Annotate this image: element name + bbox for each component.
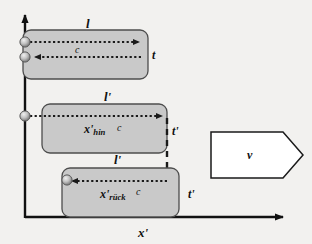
distance-subscript: rück (109, 192, 125, 202)
moving-frame-outbound-length-label: l' (104, 90, 111, 103)
moving-frame-return-marker (62, 175, 72, 185)
moving-frame-return-speed-label: c (136, 187, 140, 197)
moving-frame-return-time-label: t' (188, 188, 195, 200)
distance-base: x' (84, 122, 93, 136)
velocity-label: v (247, 149, 252, 161)
moving-frame-outbound-speed-label: c (117, 123, 121, 133)
rest-frame-length-label: l (86, 17, 90, 30)
rest-frame-box (23, 30, 148, 79)
moving-frame-outbound-marker (20, 111, 30, 121)
distance-base: x' (100, 187, 109, 201)
rest-frame-marker-start (20, 37, 30, 47)
rest-frame-speed-label: c (75, 45, 79, 55)
x-axis-label: x' (138, 226, 148, 239)
moving-frame-outbound-distance-label: x'hin (84, 123, 105, 137)
rest-frame-marker-end (20, 52, 30, 62)
moving-frame-return-length-label: l' (114, 153, 121, 166)
moving-frame-return-distance-label: x'rück (100, 188, 126, 202)
diagram-root: l c t l' x'hin c t' l' x'rück c t' v x' (0, 0, 312, 244)
rest-frame-group (20, 30, 148, 79)
velocity-indicator-shape (211, 132, 303, 178)
diagram-canvas (0, 0, 312, 244)
rest-frame-time-label: t (152, 49, 155, 61)
moving-frame-outbound-time-label: t' (172, 125, 179, 137)
distance-subscript: hin (93, 127, 105, 137)
